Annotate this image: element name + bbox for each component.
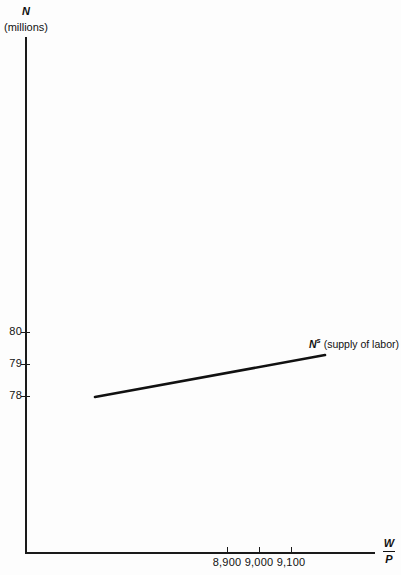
y-tick-mark-80 (21, 332, 30, 333)
x-tick-label-9100: 9,100 (261, 556, 321, 568)
x-tick-mark-8900 (227, 547, 228, 553)
supply-curve-label-symbol: N (309, 338, 317, 350)
x-axis-label-fraction: W P (379, 537, 399, 566)
x-tick-mark-9100 (291, 547, 292, 553)
y-tick-label-80: 80 (0, 325, 22, 337)
y-tick-label-79: 79 (0, 357, 22, 369)
y-tick-mark-79 (21, 364, 30, 365)
y-axis-line (25, 37, 27, 554)
fraction-bar-icon (383, 551, 395, 552)
chart-figure: N (millions) 80 79 78 8,900 9,000 9,100 … (0, 0, 401, 575)
x-axis-label-denominator: P (385, 553, 392, 565)
supply-curve-label: Ns (supply of labor) (309, 336, 399, 350)
y-tick-mark-78 (21, 396, 30, 397)
y-tick-label-78: 78 (0, 389, 22, 401)
x-tick-mark-9000 (259, 547, 260, 553)
supply-curve-label-text: (supply of labor) (321, 338, 399, 350)
y-axis-label-symbol: N (0, 5, 52, 17)
curve-layer (0, 0, 401, 575)
y-axis-label-unit: (millions) (0, 21, 52, 33)
x-axis-label-numerator: W (384, 537, 394, 549)
supply-of-labor-line (95, 355, 325, 397)
x-axis-line (25, 552, 375, 554)
